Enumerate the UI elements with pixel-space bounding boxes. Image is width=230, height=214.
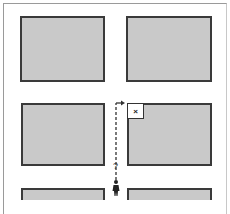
question-mark-label: ?	[113, 162, 118, 171]
person-icon	[113, 180, 120, 196]
path-overlay	[0, 0, 230, 214]
